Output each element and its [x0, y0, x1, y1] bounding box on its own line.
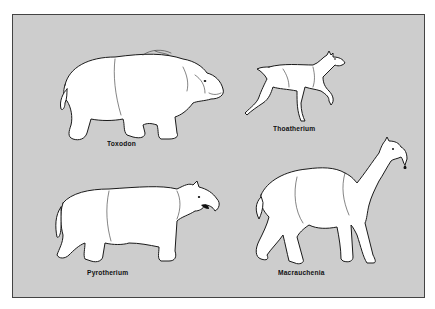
thoatherium-illustration — [243, 51, 353, 131]
toxodon-illustration — [55, 45, 225, 145]
illustration-panel: Toxodon Thoatherium Pyrotherium Macrauch… — [12, 14, 425, 298]
macrauchenia-illustration — [241, 137, 411, 272]
pyrotherium-illustration — [49, 175, 224, 275]
toxodon-label: Toxodon — [107, 140, 136, 147]
thoatherium-label: Thoatherium — [273, 125, 315, 132]
pyrotherium-label: Pyrotherium — [87, 269, 128, 276]
macrauchenia-label: Macrauchenia — [278, 269, 325, 276]
